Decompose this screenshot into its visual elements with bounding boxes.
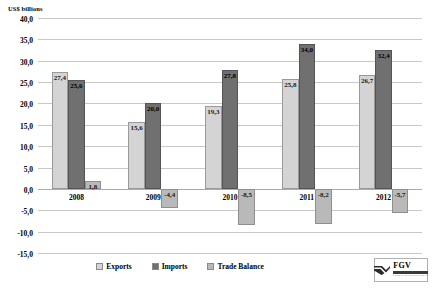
bar-value-label: 32,4 [376,52,391,61]
bar-imports[interactable]: 32,4 [375,50,392,188]
legend-item-imports[interactable]: Imports [152,262,188,271]
fgv-chevron-icon [374,261,390,279]
legend-swatch-icon [152,263,159,270]
y-axis-tick-label: -10,0 [0,228,33,237]
x-axis-category-label: 2009 [115,193,192,202]
y-axis-tick-label: 30,0 [0,57,33,66]
bar-exports[interactable]: 19,3 [205,106,222,188]
chart-container: US$ billions 40,035,030,025,020,015,010,… [0,0,434,290]
bar-value-label: 15,6 [129,124,144,133]
y-axis-title: US$ billions [8,5,43,12]
gridline: -15,0 [38,253,422,254]
plot-area: 40,035,030,025,020,015,010,05,00,0-5,0-1… [38,18,422,253]
bar-value-label: 19,3 [206,108,221,117]
fgv-logo-text: FGV [393,262,411,270]
fgv-logo-text-block: FGV FUNDAÇÃO GETULIO VARGAS [393,262,427,277]
bar-group: 15,620,0-4,42009 [115,18,192,253]
bar-value-label: 26,7 [360,77,375,86]
bar-group: 19,327,8-8,52010 [192,18,269,253]
bar-exports[interactable]: 25,8 [282,79,299,189]
bar-value-label: 25,6 [69,82,84,91]
bar-imports[interactable]: 25,6 [68,80,85,189]
legend-item-exports[interactable]: Exports [96,262,131,271]
legend-item-balance[interactable]: Trade Balance [207,262,263,271]
x-axis-category-label: 2010 [192,193,269,202]
y-axis-tick-label: 0,0 [0,185,33,194]
x-axis-category-label: 2012 [345,193,422,202]
bar-imports[interactable]: 20,0 [145,103,162,188]
bar-exports[interactable]: 15,6 [128,122,145,189]
fgv-logo-subtitle: FUNDAÇÃO GETULIO VARGAS [393,275,427,277]
bar-value-label: 25,8 [283,81,298,90]
y-axis-tick-label: 25,0 [0,79,33,88]
bar-imports[interactable]: 34,0 [299,44,316,189]
fgv-logo: FGV FUNDAÇÃO GETULIO VARGAS [374,258,428,282]
bar-exports[interactable]: 27,4 [52,72,69,189]
y-axis-tick-label: 20,0 [0,100,33,109]
bar-value-label: 1,8 [86,183,101,192]
legend-swatch-icon [207,263,214,270]
legend-swatch-icon [96,263,103,270]
bar-value-label: 20,0 [146,105,161,114]
legend-label: Imports [162,262,188,271]
bar-balance[interactable]: 1,8 [85,181,102,189]
bar-group: 27,425,61,82008 [38,18,115,253]
bar-value-label: 27,8 [223,72,238,81]
y-axis-tick-label: 40,0 [0,15,33,24]
y-axis-tick-label: -15,0 [0,250,33,259]
bar-group: 25,834,0-8,22011 [268,18,345,253]
bar-group: 26,732,4-5,72012 [345,18,422,253]
bar-value-label: 27,4 [53,74,68,83]
x-axis-category-label: 2011 [268,193,345,202]
y-axis-tick-label: 5,0 [0,164,33,173]
y-axis-tick-label: -5,0 [0,207,33,216]
y-axis-tick-label: 10,0 [0,143,33,152]
legend-label: Trade Balance [217,262,263,271]
bar-groups: 27,425,61,8200815,620,0-4,4200919,327,8-… [38,18,422,253]
chart-legend: ExportsImportsTrade Balance [0,262,360,271]
legend-label: Exports [106,262,131,271]
x-axis-category-label: 2008 [38,193,115,202]
bar-value-label: 34,0 [300,46,315,55]
bar-exports[interactable]: 26,7 [359,75,376,189]
bar-imports[interactable]: 27,8 [222,70,239,189]
y-axis-tick-label: 35,0 [0,36,33,45]
y-axis-tick-label: 15,0 [0,121,33,130]
